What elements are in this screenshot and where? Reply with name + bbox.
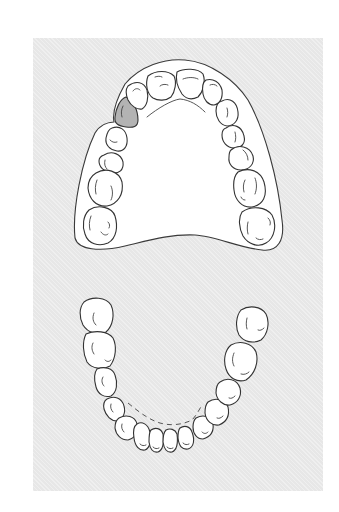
dental-arches-diagram: [0, 0, 339, 512]
lower-tooth: [83, 332, 115, 369]
upper-tooth: [229, 147, 254, 170]
lower-lingual-line: [128, 403, 202, 425]
lower-tooth: [178, 426, 194, 449]
upper-tooth: [234, 170, 266, 207]
lower-tooth: [80, 298, 113, 334]
upper-tooth: [147, 72, 176, 101]
upper-tooth: [88, 170, 122, 206]
lower-tooth: [225, 343, 257, 381]
upper-tooth: [106, 127, 127, 151]
lower-tooth: [216, 379, 241, 405]
lower-arch: [80, 298, 268, 452]
upper-tooth: [83, 207, 116, 245]
upper-tooth: [222, 126, 244, 148]
upper-tooth: [216, 100, 238, 126]
lower-tooth: [134, 423, 151, 450]
lower-tooth: [95, 368, 117, 397]
lower-tooth: [237, 307, 269, 342]
upper-arch: [74, 60, 282, 251]
